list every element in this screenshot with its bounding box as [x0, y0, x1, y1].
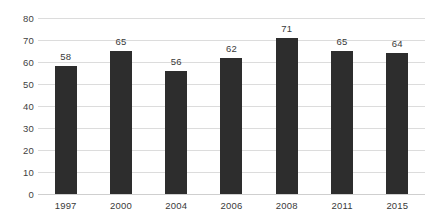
bars-layer: 58655662716564	[38, 18, 425, 194]
bar-slot: 65	[93, 18, 148, 194]
x-tick-label: 2015	[386, 200, 408, 211]
bar[interactable]	[386, 53, 408, 194]
x-tick-label: 2006	[221, 200, 243, 211]
bar[interactable]	[331, 51, 353, 194]
x-tick-label: 1997	[55, 200, 77, 211]
y-tick-label: 10	[23, 167, 34, 178]
bar[interactable]	[110, 51, 132, 194]
x-tick-label: 2004	[165, 200, 187, 211]
x-axis: 1997200020042006200820112015	[38, 200, 425, 220]
bar[interactable]	[276, 38, 298, 194]
bar-value-label: 58	[60, 51, 71, 62]
bar[interactable]	[55, 66, 77, 194]
x-tick-label: 2008	[276, 200, 298, 211]
bar[interactable]	[220, 58, 242, 194]
y-tick-label: 20	[23, 145, 34, 156]
x-tick-label: 2011	[331, 200, 352, 211]
bar-value-label: 64	[392, 38, 403, 49]
cropped-title-remnant	[0, 0, 432, 10]
y-tick-label: 50	[23, 79, 34, 90]
y-axis: 01020304050607080	[0, 18, 34, 194]
y-tick-label: 0	[29, 189, 34, 200]
bar-chart: 01020304050607080 58655662716564 1997200…	[0, 0, 432, 223]
y-tick-label: 60	[23, 57, 34, 68]
bar-value-label: 56	[171, 56, 182, 67]
bar-slot: 62	[204, 18, 259, 194]
bar-value-label: 71	[281, 23, 292, 34]
bar[interactable]	[165, 71, 187, 194]
bar-value-label: 65	[115, 36, 126, 47]
bar-slot: 65	[314, 18, 369, 194]
x-tick-label: 2000	[110, 200, 132, 211]
y-tick-label: 70	[23, 35, 34, 46]
y-tick-label: 40	[23, 101, 34, 112]
bar-slot: 64	[370, 18, 425, 194]
gridline	[38, 194, 425, 195]
bar-value-label: 62	[226, 43, 237, 54]
bar-slot: 58	[38, 18, 93, 194]
bar-value-label: 65	[337, 36, 348, 47]
bar-slot: 56	[149, 18, 204, 194]
bar-slot: 71	[259, 18, 314, 194]
y-tick-label: 30	[23, 123, 34, 134]
y-tick-label: 80	[23, 13, 34, 24]
